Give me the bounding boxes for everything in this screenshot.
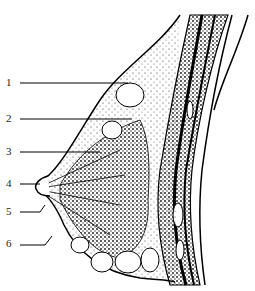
label-1: 1 — [6, 77, 12, 88]
label-2: 2 — [6, 113, 12, 124]
label-3: 3 — [6, 146, 12, 157]
breast-illustration — [0, 0, 255, 291]
label-6: 6 — [6, 238, 12, 249]
label-5: 5 — [6, 206, 12, 217]
anatomy-diagram: 1 2 3 4 5 6 — [0, 0, 255, 291]
breast-outline — [36, 15, 180, 282]
label-4: 4 — [6, 178, 12, 189]
